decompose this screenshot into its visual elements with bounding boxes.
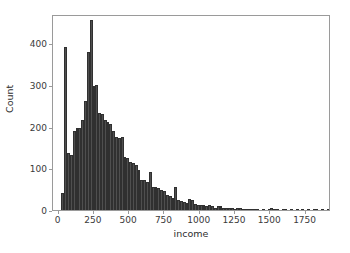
histogram-bar	[301, 209, 304, 210]
y-tick-mark	[49, 128, 52, 129]
y-tick-label: 0	[41, 206, 47, 216]
x-tick-mark	[269, 211, 270, 214]
histogram-bar	[296, 209, 299, 210]
y-tick-mark	[49, 211, 52, 212]
y-tick-label: 200	[30, 123, 47, 133]
x-tick-label: 1750	[293, 215, 316, 226]
x-tick-mark	[128, 211, 129, 214]
histogram-bar	[315, 209, 318, 210]
x-tick-mark	[163, 211, 164, 214]
y-tick-label: 400	[30, 39, 47, 49]
x-tick-label: 500	[120, 215, 137, 226]
histogram-bar	[307, 209, 310, 210]
histogram-bar	[321, 209, 324, 210]
x-tick-label: 750	[155, 215, 172, 226]
histogram-bar	[284, 209, 287, 210]
x-tick-mark	[234, 211, 235, 214]
y-tick-mark	[49, 86, 52, 87]
y-tick-mark	[49, 44, 52, 45]
x-tick-label: 1250	[223, 215, 246, 226]
x-axis-label: income	[52, 228, 330, 239]
histogram-bar	[262, 209, 265, 210]
histogram-bar	[327, 209, 329, 210]
histogram-bar	[276, 209, 279, 210]
plot-axes	[52, 15, 330, 211]
x-tick-label: 250	[84, 215, 101, 226]
histogram-bar	[256, 209, 259, 210]
y-tick-label: 100	[30, 164, 47, 174]
x-tick-mark	[305, 211, 306, 214]
x-tick-mark	[58, 211, 59, 214]
x-tick-label: 0	[55, 215, 61, 226]
x-tick-label: 1000	[187, 215, 210, 226]
x-tick-label: 1500	[258, 215, 281, 226]
y-axis-label: Count	[4, 85, 15, 113]
plot-area	[53, 16, 329, 210]
x-tick-mark	[199, 211, 200, 214]
histogram-bar	[290, 209, 293, 210]
y-tick-label: 300	[30, 81, 47, 91]
x-tick-mark	[93, 211, 94, 214]
histogram-figure: income Count 025050075010001250150017500…	[0, 0, 350, 253]
y-tick-mark	[49, 169, 52, 170]
